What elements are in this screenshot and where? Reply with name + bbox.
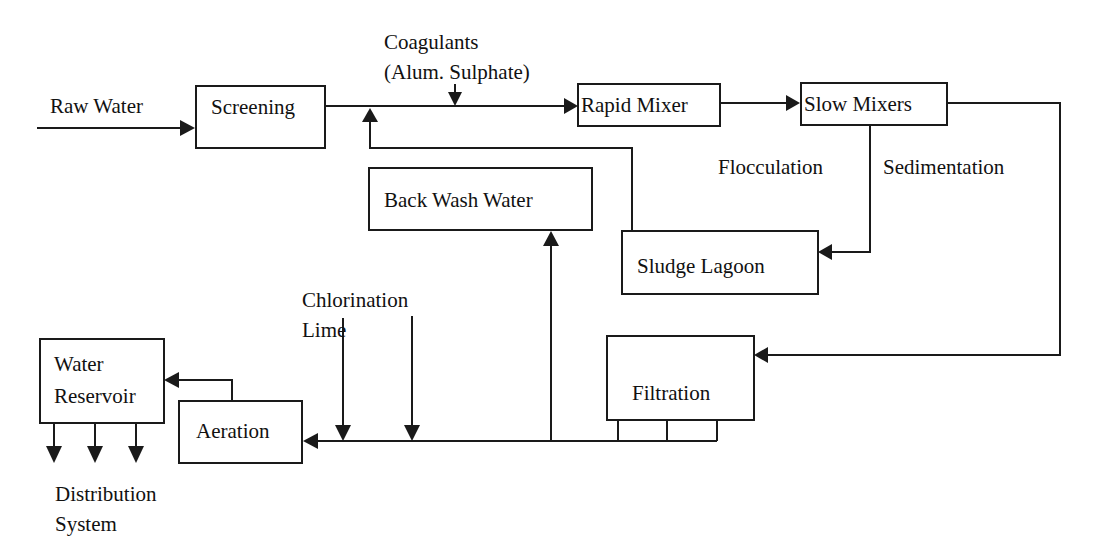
slow-mixers-to-sludge-line <box>832 125 870 252</box>
filtration-box: Filtration <box>606 335 755 421</box>
filtration-label: Filtration <box>632 381 710 405</box>
slow-mixers-to-filtration-line <box>768 103 1060 355</box>
chlorination-label: Chlorination <box>302 288 408 312</box>
rapid-mixer-box: Rapid Mixer <box>577 83 721 127</box>
system-label: System <box>55 512 117 536</box>
sludge-lagoon-box: Sludge Lagoon <box>621 230 819 295</box>
raw-water-label: Raw Water <box>50 94 143 118</box>
water-reservoir-label-1: Water <box>54 352 104 376</box>
alum-sulphate-label: (Alum. Sulphate) <box>384 60 530 84</box>
slow-mixers-label: Slow Mixers <box>804 92 912 116</box>
slow-mixers-box: Slow Mixers <box>800 82 948 126</box>
aeration-label: Aeration <box>196 419 269 443</box>
aeration-to-reservoir-line <box>178 380 232 400</box>
back-wash-water-box: Back Wash Water <box>368 167 593 231</box>
flocculation-label: Flocculation <box>718 155 823 179</box>
lime-label: Lime <box>302 318 346 342</box>
screening-box: Screening <box>195 85 326 149</box>
coagulants-label: Coagulants <box>384 30 479 54</box>
sludge-lagoon-label: Sludge Lagoon <box>637 254 765 278</box>
rapid-mixer-label: Rapid Mixer <box>581 93 688 117</box>
aeration-box: Aeration <box>178 400 303 464</box>
screening-label: Screening <box>211 95 295 119</box>
back-wash-water-label: Back Wash Water <box>384 188 533 212</box>
water-reservoir-label-2: Reservoir <box>54 384 136 408</box>
distribution-label: Distribution <box>55 482 157 506</box>
sedimentation-label: Sedimentation <box>883 155 1004 179</box>
water-reservoir-box: Water Reservoir <box>39 338 165 424</box>
